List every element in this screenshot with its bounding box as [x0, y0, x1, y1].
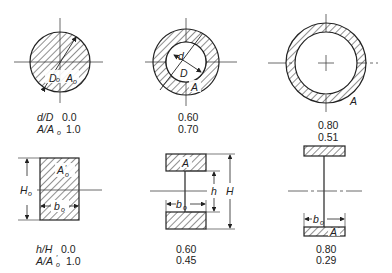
row2-area-3: 0.29	[316, 254, 336, 266]
label-A3: A	[350, 95, 357, 107]
row1-area-2: 0.70	[178, 123, 198, 135]
label-h: h	[211, 185, 217, 197]
i-section-medium	[150, 154, 235, 229]
i-section-deep	[288, 146, 362, 236]
row1-ratio-3: 0.80	[318, 119, 338, 131]
row2-param1-label: h/H	[36, 243, 52, 255]
row1-area-3: 0.51	[318, 131, 338, 143]
label-H: H	[226, 185, 234, 197]
label-d: d	[178, 50, 184, 62]
label-D-sub: o	[56, 74, 60, 86]
row2-area-2: 0.45	[176, 254, 196, 266]
row2-ratio-1: 0.0	[61, 243, 76, 255]
label-bo-ibeam: b	[176, 198, 182, 210]
label-Ho-sub: o	[28, 188, 32, 200]
row1-ratio-2: 0.60	[178, 111, 198, 123]
label-A-ibeam: A	[182, 157, 189, 169]
row1-param2-label: A/A	[37, 123, 54, 135]
label-A-deep: A	[330, 226, 337, 238]
label-A2: A	[191, 81, 198, 93]
row2-param2-label: A/A	[36, 255, 53, 267]
label-D2: D	[180, 67, 188, 79]
hollow-circle-thin	[268, 14, 378, 112]
label-bo-deep: b	[313, 213, 319, 225]
label-bo-sub: o	[61, 204, 65, 216]
row1-ratio-1: 0.0	[62, 111, 77, 123]
label-Ao-sub: o	[73, 76, 77, 88]
row1-area-1: 1.0	[66, 123, 81, 135]
label-Ho: H	[20, 184, 28, 196]
label-bo: b	[54, 200, 60, 212]
row1-param1-label: d/D	[37, 111, 53, 123]
label-Ao-prime-sub: o	[65, 169, 69, 181]
label-bo-deep-sub: o	[320, 217, 324, 229]
label-bo-ibeam-sub: o	[183, 202, 187, 214]
solid-circle	[14, 18, 103, 103]
label-Ao: A	[66, 72, 73, 84]
row2-area-1: 1.0	[66, 255, 81, 267]
row2-param2-sub: o	[56, 259, 60, 271]
label-Ao-prime: A	[57, 164, 64, 176]
row1-param2-sub: o	[57, 127, 61, 139]
